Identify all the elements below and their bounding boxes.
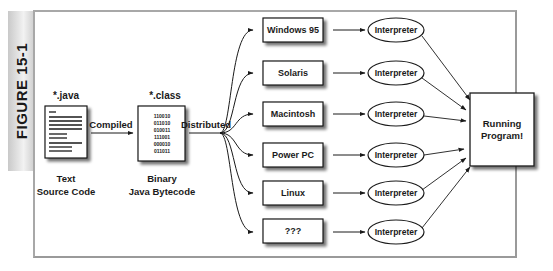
source-extension: *.java	[53, 90, 80, 101]
svg-text:011011: 011011	[154, 148, 170, 154]
bytecode-caption-line1: Binary	[147, 173, 177, 184]
svg-text:010011: 010011	[154, 127, 171, 133]
java-compilation-diagram: *.java Text Source Code Compiled *.class…	[0, 0, 553, 271]
source-file: *.java Text Source Code	[37, 90, 96, 197]
running-program: Running Program!	[470, 93, 534, 166]
svg-text:Interpreter: Interpreter	[375, 109, 418, 119]
svg-text:Interpreter: Interpreter	[375, 227, 418, 237]
svg-text:000010: 000010	[154, 141, 171, 147]
interpreter-arrows	[333, 30, 365, 232]
compile-label: Compiled	[89, 119, 132, 130]
svg-text:110010: 110010	[154, 113, 171, 119]
interpreter-solaris: Interpreter	[368, 61, 424, 85]
platform-boxes: Windows 95 Solaris Macintosh Power PC Li…	[263, 18, 323, 243]
distribute-fanout	[189, 30, 253, 232]
svg-text:Interpreter: Interpreter	[375, 68, 418, 78]
platform-macintosh: Macintosh	[263, 102, 323, 126]
converge-arrows	[422, 36, 470, 228]
platform-windows95: Windows 95	[263, 18, 323, 42]
source-caption-line1: Text	[57, 173, 77, 184]
svg-text:Power PC: Power PC	[272, 150, 315, 160]
compile-arrow: Compiled	[89, 119, 133, 133]
interpreter-windows95: Interpreter	[368, 18, 424, 42]
distribute-label: Distributed	[181, 119, 231, 130]
result-line2: Program!	[481, 130, 523, 141]
svg-text:Solaris: Solaris	[278, 68, 308, 78]
binary-bits: 110010 011010 010011 111001 000010 01101…	[154, 113, 171, 154]
svg-text:Interpreter: Interpreter	[375, 25, 418, 35]
platform-unknown: ???	[263, 219, 323, 243]
source-caption-line2: Source Code	[37, 186, 96, 197]
platform-solaris: Solaris	[263, 61, 323, 85]
bytecode-extension: *.class	[149, 90, 181, 101]
result-line1: Running	[483, 118, 522, 129]
bytecode-caption-line2: Java Bytecode	[129, 186, 196, 197]
svg-text:Interpreter: Interpreter	[375, 150, 418, 160]
svg-text:Windows 95: Windows 95	[267, 25, 319, 35]
interpreter-powerpc: Interpreter	[368, 143, 424, 167]
svg-text:Macintosh: Macintosh	[271, 109, 316, 119]
svg-text:???: ???	[285, 226, 302, 236]
svg-text:011010: 011010	[154, 120, 171, 126]
interpreters: Interpreter Interpreter Interpreter Inte…	[368, 18, 424, 244]
svg-text:Interpreter: Interpreter	[375, 188, 418, 198]
svg-text:Linux: Linux	[281, 188, 305, 198]
interpreter-linux: Interpreter	[368, 181, 424, 205]
platform-powerpc: Power PC	[263, 143, 323, 167]
svg-text:111001: 111001	[154, 134, 170, 140]
bytecode-file: *.class 110010 011010 010011 111001 0000…	[129, 90, 196, 197]
platform-linux: Linux	[263, 181, 323, 205]
document-icon	[45, 106, 87, 158]
interpreter-unknown: Interpreter	[368, 220, 424, 244]
interpreter-macintosh: Interpreter	[368, 102, 424, 126]
